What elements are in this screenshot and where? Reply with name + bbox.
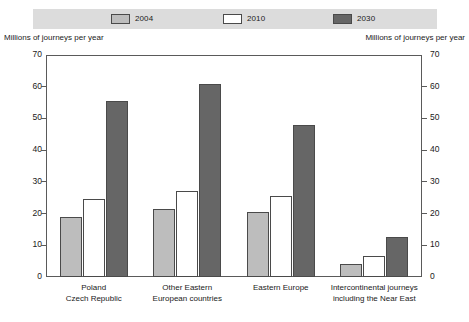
y-tick-label-left-60: 60	[24, 82, 42, 91]
legend-swatch-2004	[111, 14, 130, 24]
y-tick-label-right-50: 50	[430, 113, 448, 122]
category-label-line: European countries	[117, 294, 257, 305]
y-tick-mark-right-40	[422, 150, 427, 151]
y-tick-label-right-30: 30	[430, 177, 448, 186]
y-tick-mark-right-50	[422, 118, 427, 119]
bar-chart: 2004 2010 2030 Millions of journeys per …	[0, 0, 469, 322]
bars-layer	[47, 56, 421, 277]
bar-2030-group-1	[106, 101, 128, 277]
y-tick-label-left-50: 50	[24, 113, 42, 122]
legend-label-2030: 2030	[357, 14, 375, 24]
legend-item-2030: 2030	[333, 12, 375, 26]
y-tick-label-right-60: 60	[430, 82, 448, 91]
y-tick-label-right-10: 10	[430, 240, 448, 249]
y-tick-label-left-70: 70	[24, 50, 42, 59]
left-axis-caption: Millions of journeys per year	[4, 33, 104, 43]
y-tick-label-left-40: 40	[24, 145, 42, 154]
y-tick-label-left-0: 0	[24, 272, 42, 281]
legend-label-2010: 2010	[247, 14, 265, 24]
y-tick-mark-left-60	[41, 86, 46, 87]
y-tick-label-left-10: 10	[24, 240, 42, 249]
y-tick-mark-left-20	[41, 213, 46, 214]
bar-2010-group-1	[83, 199, 105, 277]
bar-2004-group-2	[153, 209, 175, 277]
y-tick-label-right-70: 70	[430, 50, 448, 59]
bar-2030-group-4	[386, 237, 408, 277]
category-label-line: Intercontinental journeys	[304, 283, 444, 294]
bar-2010-group-3	[270, 196, 292, 277]
bar-2004-group-1	[60, 217, 82, 277]
y-tick-mark-right-10	[422, 245, 427, 246]
right-axis-caption: Millions of journeys per year	[365, 33, 465, 43]
category-label-line: including the Near East	[304, 294, 444, 305]
legend-item-2004: 2004	[111, 12, 153, 26]
y-tick-label-right-40: 40	[430, 145, 448, 154]
y-tick-mark-left-40	[41, 150, 46, 151]
bar-2004-group-4	[340, 264, 362, 277]
y-tick-mark-left-10	[41, 245, 46, 246]
bar-2010-group-2	[176, 191, 198, 277]
y-tick-label-right-20: 20	[430, 209, 448, 218]
legend-swatch-2030	[333, 14, 352, 24]
y-tick-label-left-20: 20	[24, 209, 42, 218]
legend-label-2004: 2004	[135, 14, 153, 24]
y-tick-mark-right-30	[422, 181, 427, 182]
chart-legend: 2004 2010 2030	[33, 9, 437, 29]
y-tick-mark-right-60	[422, 86, 427, 87]
bar-2030-group-2	[199, 84, 221, 277]
category-label-4: Intercontinental journeysincluding the N…	[304, 283, 444, 304]
y-tick-label-right-0: 0	[430, 272, 448, 281]
y-tick-mark-right-20	[422, 213, 427, 214]
bar-2030-group-3	[293, 125, 315, 277]
y-tick-label-left-30: 30	[24, 177, 42, 186]
legend-swatch-2010	[223, 14, 242, 24]
y-tick-mark-left-30	[41, 181, 46, 182]
legend-item-2010: 2010	[223, 12, 265, 26]
y-tick-mark-left-50	[41, 118, 46, 119]
bar-2010-group-4	[363, 256, 385, 277]
bar-2004-group-3	[247, 212, 269, 277]
